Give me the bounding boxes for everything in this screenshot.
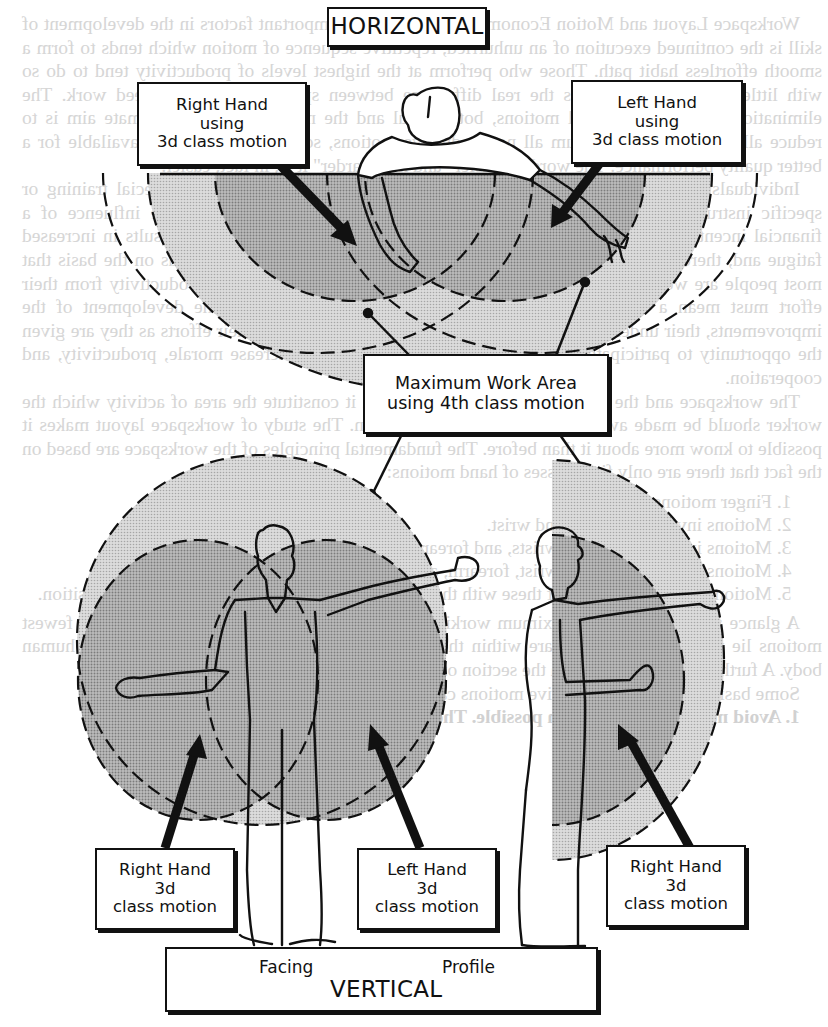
label-right-hand-facing: Right Hand 3d class motion <box>95 848 235 930</box>
label-line: Right Hand <box>176 96 268 114</box>
label-line: class motion <box>375 898 479 916</box>
label-line: using <box>200 115 245 133</box>
label-line: using 4th class motion <box>387 394 585 414</box>
label-line: 3d <box>417 880 438 898</box>
label-line: 3d class motion <box>157 133 287 151</box>
label-line: 3d class motion <box>592 131 722 149</box>
label-line: 3d <box>155 880 176 898</box>
horizontal-work-area <box>103 0 757 391</box>
label-line: Left Hand <box>617 94 697 112</box>
label-right-hand-profile: Right Hand 3d class motion <box>606 845 746 927</box>
vertical-title: VERTICAL <box>330 976 442 1002</box>
label-line: Right Hand <box>630 858 722 876</box>
label-line: using <box>635 113 680 131</box>
label-line: Right Hand <box>119 861 211 879</box>
vertical-title-box: Facing Profile VERTICAL <box>165 947 598 1012</box>
label-line: Maximum Work Area <box>395 374 577 394</box>
view-profile-label: Profile <box>442 957 495 977</box>
label-line: class motion <box>624 895 728 913</box>
label-right-hand-top: Right Hand using 3d class motion <box>137 82 307 166</box>
horizontal-title-box: HORIZONTAL <box>327 7 487 47</box>
view-facing-label: Facing <box>259 957 313 977</box>
label-line: class motion <box>113 898 217 916</box>
label-left-hand-top: Left Hand using 3d class motion <box>571 80 743 164</box>
label-line: Left Hand <box>387 861 467 879</box>
label-left-hand-facing: Left Hand 3d class motion <box>357 848 497 930</box>
label-line: 3d <box>666 877 687 895</box>
horizontal-title: HORIZONTAL <box>330 14 483 40</box>
label-max-work-area: Maximum Work Area using 4th class motion <box>363 354 609 434</box>
